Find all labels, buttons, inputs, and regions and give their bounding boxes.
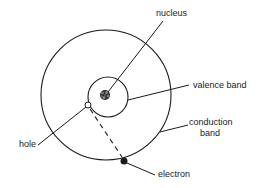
valence-band-leader-line	[128, 85, 189, 100]
hole-marker	[85, 102, 91, 108]
hole-label: hole	[19, 139, 36, 149]
hole-leader-line	[38, 107, 86, 145]
conduction-band-label-line1: conduction	[189, 117, 233, 127]
electron-label: electron	[158, 169, 190, 179]
valence-band-label: valence band	[193, 80, 247, 90]
nucleus-leader-line	[108, 21, 163, 92]
conduction-band-leader-line	[160, 125, 188, 132]
nucleus-label: nucleus	[156, 8, 187, 18]
electron-leader-line	[127, 163, 155, 175]
diagram-canvas	[0, 0, 259, 188]
atom-band-diagram: nucleus valence band conduction band hol…	[0, 0, 259, 188]
conduction-band-label-line2: band	[200, 128, 220, 138]
electron-marker	[121, 158, 128, 165]
transition-dashed-line	[90, 109, 122, 157]
